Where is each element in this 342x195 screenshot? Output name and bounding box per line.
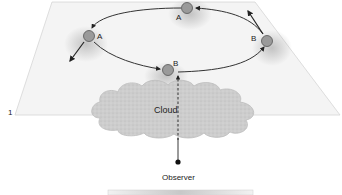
next-panel-edge: [108, 190, 253, 195]
cloud-label: Cloud: [154, 105, 178, 115]
observer-label: Observer: [162, 173, 195, 182]
label-a-top: A: [176, 13, 182, 22]
label-b-right: B: [251, 34, 256, 43]
orbit-diagram: A A B B Cloud Observer 1: [0, 0, 342, 195]
body-a-top: [182, 3, 193, 14]
body-b-right: [262, 36, 273, 47]
observer-dot: [175, 159, 180, 164]
body-b-front: [163, 65, 174, 76]
body-a-left: [84, 31, 95, 42]
figure-number: 1: [8, 108, 13, 117]
label-b-front: B: [173, 59, 178, 68]
label-a-left: A: [97, 32, 103, 41]
